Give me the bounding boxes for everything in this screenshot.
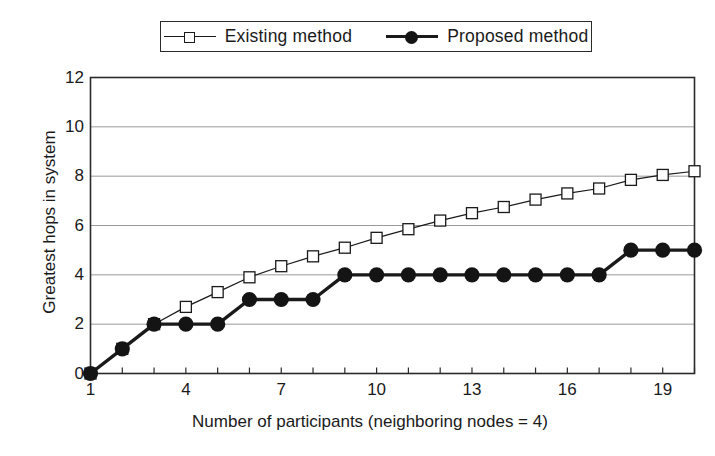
data-point-marker [178,317,193,332]
data-point-marker [244,272,255,283]
x-tick-label: 16 [547,381,587,398]
data-point-marker [528,267,543,282]
data-point-marker [276,261,287,272]
chart-legend: Existing method Proposed method [160,21,592,52]
data-point-marker [274,292,289,307]
y-axis-title: Greatest hops in system [40,72,60,372]
legend-item-proposed-method: Proposed method [386,26,588,47]
data-point-marker [623,243,638,258]
data-point-marker [435,215,446,226]
data-point-marker [592,267,607,282]
x-axis-title: Number of participants (neighboring node… [90,412,650,432]
x-tick-label: 4 [166,381,206,398]
x-tick-label: 1 [71,381,111,398]
data-point-marker [339,242,350,253]
series-existing-method [85,166,700,379]
data-point-marker [212,287,223,298]
data-point-marker [625,174,636,185]
x-tick-label: 10 [357,381,397,398]
legend-label-existing-method: Existing method [225,26,353,47]
data-point-marker [337,267,352,282]
data-point-marker [242,292,257,307]
data-point-marker [655,243,670,258]
x-tick-label: 19 [643,381,683,398]
x-tick-label: 13 [452,381,492,398]
data-point-marker [466,208,477,219]
data-point-marker [687,243,702,258]
data-point-marker [83,366,98,381]
data-point-marker [305,292,320,307]
data-point-marker [594,183,605,194]
data-point-marker [403,224,414,235]
legend-item-existing-method: Existing method [164,26,353,47]
data-point-marker [496,267,511,282]
square-outline-icon [164,29,216,45]
data-point-marker [560,267,575,282]
chart-figure: Existing method Proposed method 02468101… [0,0,715,456]
data-point-marker [530,194,541,205]
gridlines [91,127,695,324]
data-point-marker [369,267,384,282]
data-point-marker [562,188,573,199]
data-point-marker [689,166,700,177]
legend-label-proposed-method: Proposed method [447,26,588,47]
x-tick-label: 7 [261,381,301,398]
data-point-marker [401,267,416,282]
data-point-marker [464,267,479,282]
x-tick-marks [91,368,695,374]
circle-filled-icon [386,29,438,45]
x-axis-tick-labels: 14710131619 [0,381,715,405]
data-point-marker [115,341,130,356]
data-point-marker [308,251,319,262]
data-point-marker [433,267,448,282]
data-point-marker [180,301,191,312]
data-point-marker [146,317,161,332]
data-point-marker [657,169,668,180]
data-point-marker [498,202,509,213]
data-point-marker [371,232,382,243]
data-point-marker [210,317,225,332]
